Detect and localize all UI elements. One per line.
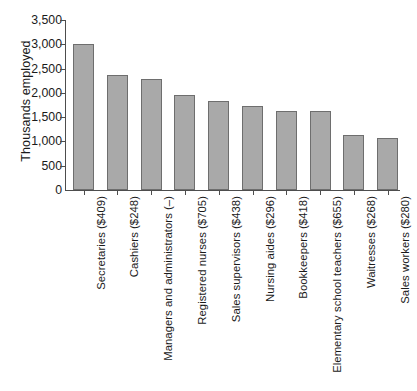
bar xyxy=(174,95,195,190)
y-axis-tick-label: 1,500 xyxy=(24,111,62,123)
bar xyxy=(73,44,94,190)
x-axis-tick-mark xyxy=(286,191,287,195)
x-axis-tick-label: Registered nurses ($705) xyxy=(191,196,212,386)
x-axis-tick-label: Sales workers ($280) xyxy=(394,196,415,386)
bar xyxy=(141,79,162,190)
y-axis-tick-mark xyxy=(60,69,66,70)
x-axis-tick-labels: Secretaries ($409)Cashiers ($248)Manager… xyxy=(68,196,400,391)
bar xyxy=(276,111,297,190)
bar xyxy=(208,101,229,190)
bar xyxy=(107,75,128,190)
y-axis-tick-mark xyxy=(60,141,66,142)
x-axis-tick-mark xyxy=(151,191,152,195)
bar xyxy=(377,138,398,190)
bar xyxy=(310,111,331,190)
x-axis-tick-mark xyxy=(253,191,254,195)
x-axis-tick-label: Waitresses ($268) xyxy=(360,196,381,386)
y-axis-tick-label: 2,000 xyxy=(24,87,62,99)
x-axis-tick-mark xyxy=(354,191,355,195)
y-axis-line xyxy=(65,20,66,190)
y-axis-tick-label: 0 xyxy=(24,184,62,196)
bar-series xyxy=(68,20,400,190)
y-axis-tick-label: 2,500 xyxy=(24,63,62,75)
y-axis-tick-label: 1,000 xyxy=(24,135,62,147)
x-axis-tick-label: Managers and administrators (–) xyxy=(157,196,178,386)
x-axis-tick-mark xyxy=(84,191,85,195)
x-axis-tick-mark xyxy=(388,191,389,195)
y-axis-tick-mark xyxy=(60,117,66,118)
y-axis-tick-mark xyxy=(60,20,66,21)
x-axis-tick-mark xyxy=(219,191,220,195)
plot-area xyxy=(68,20,400,190)
bar-chart: Thousands employed 3,5003,0002,5002,0001… xyxy=(0,0,417,391)
y-axis-tick-mark xyxy=(60,44,66,45)
y-axis-tick-mark xyxy=(60,93,66,94)
x-axis-tick-label: Elementary school teachers ($655) xyxy=(326,196,347,386)
x-axis-tick-mark xyxy=(117,191,118,195)
bar xyxy=(343,135,364,190)
x-axis-tick-mark xyxy=(320,191,321,195)
x-axis-tick-label: Secretaries ($409) xyxy=(90,196,111,386)
bar xyxy=(242,106,263,190)
x-axis-tick-label: Sales supervisors ($438) xyxy=(225,196,246,386)
y-axis-tick-mark xyxy=(60,166,66,167)
x-axis-tick-label: Bookkeepers ($418) xyxy=(292,196,313,386)
x-axis-tick-mark xyxy=(185,191,186,195)
x-axis-tick-label: Cashiers ($248) xyxy=(123,196,144,386)
x-axis-tick-label: Nursing aides ($296) xyxy=(259,196,280,386)
y-axis-tick-label: 500 xyxy=(24,160,62,172)
y-axis-tick-label: 3,500 xyxy=(24,14,62,26)
y-axis-tick-labels: 3,5003,0002,5002,0001,5001,0005000 xyxy=(24,0,62,391)
x-axis-line xyxy=(65,190,400,191)
y-axis-tick-label: 3,000 xyxy=(24,38,62,50)
